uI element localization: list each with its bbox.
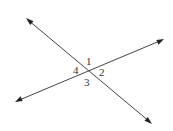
line-b bbox=[15, 39, 164, 102]
line-b-segment bbox=[17, 40, 162, 101]
arrowhead-top-right-icon bbox=[156, 39, 164, 45]
angle-label-4: 4 bbox=[73, 64, 79, 76]
angle-label-3: 3 bbox=[84, 76, 90, 88]
arrowhead-bottom-left-icon bbox=[15, 96, 23, 102]
angle-label-1: 1 bbox=[86, 55, 92, 67]
angle-label-2: 2 bbox=[99, 66, 105, 78]
intersecting-lines-diagram: 1 2 3 4 bbox=[0, 0, 173, 131]
